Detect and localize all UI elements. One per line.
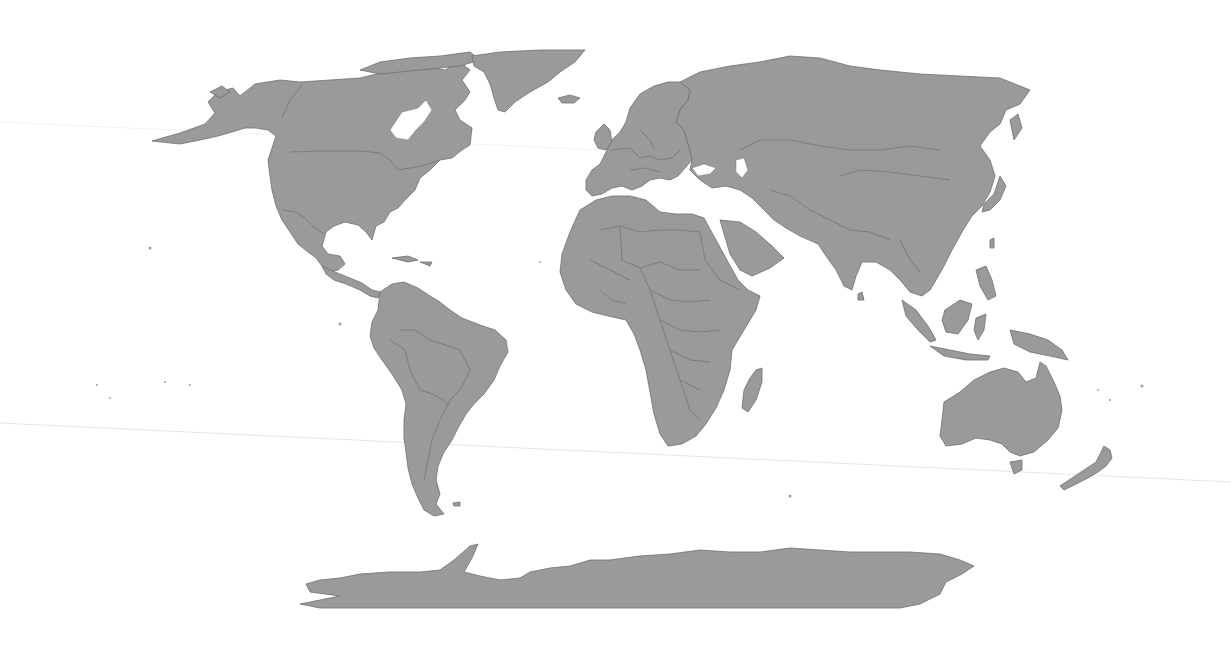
borneo	[942, 300, 972, 334]
region-north-america[interactable]	[152, 52, 480, 298]
sumatra	[902, 300, 936, 342]
falklands	[453, 502, 460, 506]
iceland	[558, 95, 580, 103]
region-australia[interactable]	[940, 362, 1062, 474]
world-map	[0, 0, 1231, 649]
region-south-america[interactable]	[370, 282, 508, 516]
new-guinea	[1010, 330, 1068, 360]
java	[930, 346, 990, 360]
sulawesi	[974, 314, 986, 340]
britain	[594, 124, 612, 150]
philippines	[976, 266, 996, 300]
madagascar	[742, 368, 762, 412]
region-antarctica[interactable]	[300, 544, 974, 608]
region-europe[interactable]	[586, 82, 692, 196]
central-america	[322, 266, 380, 298]
region-new-zealand[interactable]	[1060, 446, 1112, 490]
region-greenland[interactable]	[472, 50, 585, 112]
